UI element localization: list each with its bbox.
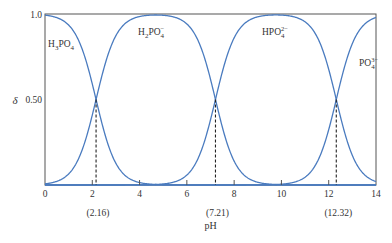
curve-h3po4 [45, 15, 376, 185]
species-label-po4-3-: PO43− [359, 56, 378, 71]
species-label-h2po4-: H2PO4− [138, 25, 165, 40]
curve-h2po4- [45, 15, 376, 185]
y-tick-label: 1.0 [30, 10, 42, 20]
x-tick-label: 12 [324, 189, 334, 199]
pka-value-label: (7.21) [206, 208, 229, 219]
plot-frame [45, 14, 376, 185]
species-label-hpo4-2-: HPO42− [262, 25, 288, 40]
x-tick-label: 14 [371, 189, 381, 199]
curve-hpo4-2- [45, 15, 376, 185]
pka-dashed-lines [96, 100, 336, 186]
species-label-h3po4: H3PO4 [48, 39, 75, 52]
y-tick-label: 0.50 [25, 95, 42, 105]
x-tick-label: 8 [232, 189, 237, 199]
phosphate-distribution-chart: 02468101214 0.501.0 H3PO4H2PO4−HPO42−PO4… [0, 0, 392, 243]
x-tick-label: 10 [277, 189, 287, 199]
x-axis-title: pH [204, 220, 216, 231]
plot-border [45, 14, 376, 185]
curve-po4-3- [45, 18, 376, 186]
species-labels: H3PO4H2PO4−HPO42−PO43− [48, 25, 378, 71]
x-axis-ticks: 02468101214 [43, 180, 381, 199]
pka-value-label: (2.16) [87, 208, 110, 219]
species-curves [45, 15, 376, 185]
y-axis-title: δ [12, 94, 18, 106]
x-tick-label: 6 [184, 189, 189, 199]
pka-value-label: (12.32) [324, 208, 352, 219]
x-tick-label: 2 [90, 189, 95, 199]
pka-labels: (2.16)(7.21)(12.32) [87, 208, 353, 219]
x-tick-label: 0 [43, 189, 48, 199]
y-axis-ticks: 0.501.0 [25, 10, 42, 106]
x-tick-label: 4 [137, 189, 142, 199]
